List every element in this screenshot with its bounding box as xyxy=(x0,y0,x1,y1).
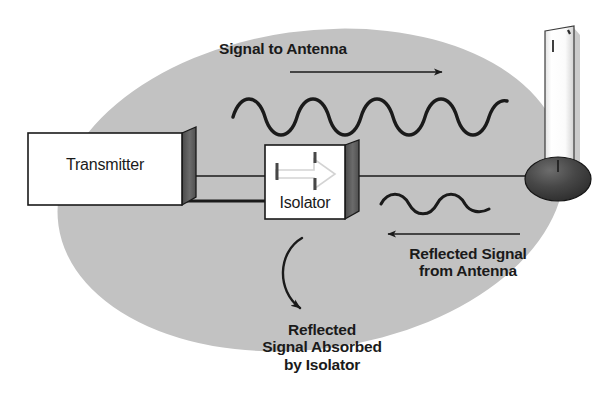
reflected-absorbed-line3: by Isolator xyxy=(284,356,360,373)
label-reflected-signal-absorbed-by-isolator: ReflectedSignal Absorbedby Isolator xyxy=(262,321,382,373)
label-reflected-signal-from-antenna: Reflected Signalfrom Antenna xyxy=(409,245,526,280)
label-signal-to-antenna: Signal to Antenna xyxy=(219,40,347,57)
transmitter-block-label: Transmitter xyxy=(66,156,144,174)
reflected-from-antenna-line2: from Antenna xyxy=(419,262,517,279)
reflected-absorbed-line2: Signal Absorbed xyxy=(262,338,382,355)
isolator-block-label: Isolator xyxy=(280,194,331,212)
reflected-from-antenna-line1: Reflected Signal xyxy=(409,245,526,262)
diagram-canvas: Signal to Antenna Reflected Signalfrom A… xyxy=(0,0,615,420)
reflected-absorbed-line1: Reflected xyxy=(288,321,356,338)
